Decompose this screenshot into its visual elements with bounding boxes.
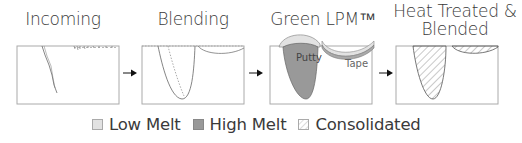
stage-heat-treated-panel xyxy=(396,46,498,104)
arrow-icon xyxy=(123,70,137,77)
legend-item-low-melt: Low Melt xyxy=(92,115,181,134)
legend: Low Melt High Melt Consolidated xyxy=(92,113,433,135)
legend-label: High Melt xyxy=(210,115,287,134)
arrow-icon xyxy=(379,70,393,77)
legend-label: Low Melt xyxy=(109,115,181,134)
legend-label: Consolidated xyxy=(315,115,420,134)
high-melt-swatch-icon xyxy=(193,119,204,130)
arrow-icon xyxy=(249,70,263,77)
putty-label: Putty xyxy=(296,52,322,63)
tape-label: Tape xyxy=(345,58,368,69)
legend-item-consolidated: Consolidated xyxy=(298,115,420,134)
stage-green-lpm-panel xyxy=(270,35,374,104)
legend-item-high-melt: High Melt xyxy=(193,115,287,134)
stage-blending-panel xyxy=(142,46,244,104)
low-melt-swatch-icon xyxy=(92,119,103,130)
consolidated-swatch-icon xyxy=(298,119,309,130)
stage-incoming-panel xyxy=(17,46,119,104)
